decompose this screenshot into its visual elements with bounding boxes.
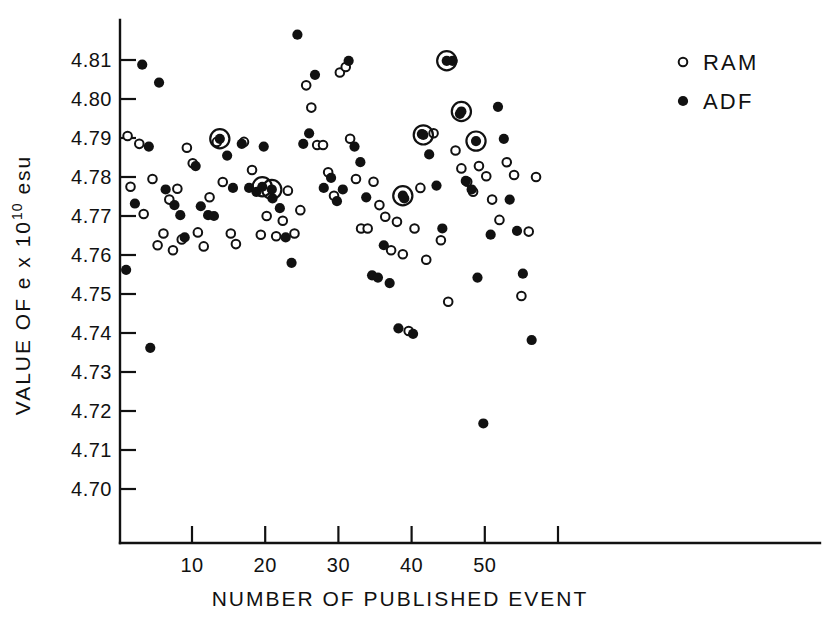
x-tick-label-20: 20 — [254, 554, 277, 576]
data-point-filled — [222, 150, 232, 160]
data-point-filled — [175, 210, 185, 220]
y-tick-label-4.70: 4.70 — [71, 478, 112, 500]
data-point-highlighted-core — [215, 134, 225, 144]
data-point-filled — [259, 141, 269, 151]
data-point-open — [369, 177, 378, 186]
data-point-filled — [281, 232, 291, 242]
data-point-filled — [467, 184, 477, 194]
data-points-group — [121, 30, 540, 429]
data-point-open — [226, 229, 235, 238]
data-point-open — [284, 186, 293, 195]
data-point-open — [437, 236, 446, 245]
data-point-open — [475, 162, 484, 171]
legend-label-adf: ADF — [703, 89, 754, 114]
data-point-open — [399, 250, 408, 259]
legend-item-adf: ADF — [678, 89, 754, 114]
data-point-open — [375, 201, 384, 210]
data-point-open — [205, 193, 214, 202]
data-point-filled — [298, 139, 308, 149]
data-point-open — [278, 216, 287, 225]
data-point-open — [148, 175, 157, 184]
data-point-highlighted-core — [418, 130, 428, 140]
data-point-filled — [486, 230, 496, 240]
data-point-filled — [499, 134, 509, 144]
legend: RAMADF — [678, 50, 759, 114]
data-point-open — [517, 292, 526, 301]
data-point-filled — [310, 70, 320, 80]
data-point-open — [296, 206, 305, 215]
data-point-filled — [319, 183, 329, 193]
x-axis-ticks: 1020304050 — [180, 526, 558, 576]
legend-marker-open-circle-icon — [679, 58, 688, 67]
data-point-open — [218, 178, 227, 187]
data-point-filled — [527, 335, 537, 345]
y-tick-label-4.80: 4.80 — [71, 88, 112, 110]
data-point-filled — [361, 192, 371, 202]
y-axis-title-prefix: VALUE OF e x 10 — [11, 220, 34, 415]
data-point-filled — [349, 141, 359, 151]
data-point-open — [495, 216, 504, 225]
data-point-filled — [408, 329, 418, 339]
data-point-filled — [424, 149, 434, 159]
y-tick-label-4.72: 4.72 — [71, 400, 112, 422]
y-tick-label-4.76: 4.76 — [71, 244, 112, 266]
x-axis-title: NUMBER OF PUBLISHED EVENT — [212, 587, 589, 610]
data-point-open — [381, 212, 390, 221]
y-tick-label-4.77: 4.77 — [71, 205, 112, 227]
series-ram — [123, 63, 540, 336]
data-point-open — [232, 240, 241, 249]
y-tick-label-4.71: 4.71 — [71, 439, 112, 461]
data-point-open — [393, 218, 402, 227]
data-point-open — [290, 229, 299, 238]
data-point-filled — [137, 60, 147, 70]
data-point-open — [199, 242, 208, 251]
data-point-open — [510, 171, 519, 180]
data-point-filled — [130, 198, 140, 208]
data-point-highlighted-core — [456, 106, 466, 116]
data-point-filled — [512, 226, 522, 236]
data-point-filled — [373, 273, 383, 283]
data-point-open — [248, 166, 257, 175]
data-point-open — [502, 158, 511, 167]
data-point-filled — [437, 223, 447, 233]
data-point-open — [451, 146, 460, 155]
data-point-open — [194, 228, 203, 237]
data-point-open — [319, 141, 328, 150]
chart-canvas: 4.704.714.724.734.744.754.764.774.784.79… — [0, 0, 836, 630]
y-tick-label-4.73: 4.73 — [71, 361, 112, 383]
data-point-open — [139, 210, 148, 219]
scatter-plot-figure: 4.704.714.724.734.744.754.764.774.784.79… — [0, 0, 836, 630]
data-point-filled — [461, 176, 471, 186]
x-tick-label-40: 40 — [400, 554, 423, 576]
legend-label-ram: RAM — [703, 50, 759, 75]
data-point-open — [123, 132, 132, 141]
series-highlighted — [210, 51, 485, 205]
data-point-filled — [169, 200, 179, 210]
data-point-open — [416, 184, 425, 193]
data-point-filled — [144, 141, 154, 151]
data-point-filled — [275, 203, 285, 213]
data-point-filled — [379, 240, 389, 250]
data-point-highlighted-core — [442, 56, 452, 66]
data-point-filled — [121, 265, 131, 275]
y-tick-label-4.74: 4.74 — [71, 322, 112, 344]
legend-marker-filled-circle-icon — [678, 96, 688, 106]
data-point-filled — [505, 195, 515, 205]
data-point-highlighted-core — [398, 191, 408, 201]
series-adf — [121, 30, 537, 429]
data-point-open — [153, 241, 162, 250]
data-point-open — [173, 184, 182, 193]
data-point-open — [532, 173, 541, 182]
legend-item-ram: RAM — [679, 50, 759, 75]
x-tick-label-10: 10 — [180, 554, 203, 576]
y-tick-label-4.75: 4.75 — [71, 283, 112, 305]
data-point-filled — [385, 278, 395, 288]
data-point-open — [183, 143, 192, 152]
data-point-filled — [518, 269, 528, 279]
data-point-filled — [431, 180, 441, 190]
y-tick-label-4.79: 4.79 — [71, 127, 112, 149]
y-tick-label-4.81: 4.81 — [71, 49, 112, 71]
data-point-filled — [493, 102, 503, 112]
data-point-filled — [326, 173, 336, 183]
data-point-open — [272, 232, 281, 241]
